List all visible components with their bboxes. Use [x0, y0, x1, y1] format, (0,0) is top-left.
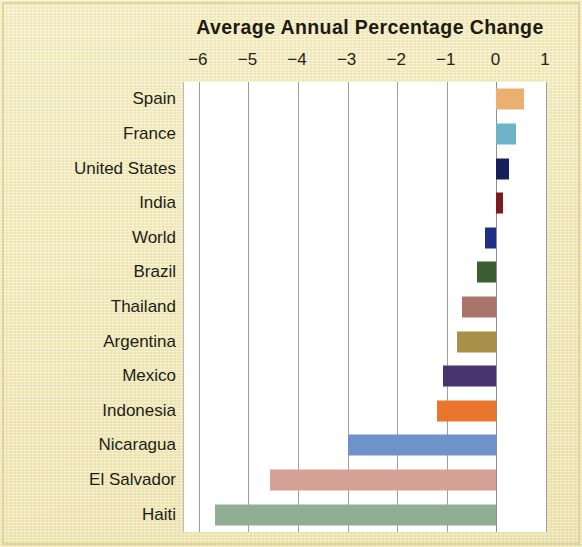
bar-mexico — [443, 366, 497, 387]
y-axis-label: Indonesia — [0, 401, 176, 421]
y-axis-label: Argentina — [0, 332, 176, 352]
y-axis-label: Mexico — [0, 366, 176, 386]
x-tick-label: −5 — [238, 50, 257, 70]
y-axis-label: Thailand — [0, 297, 176, 317]
y-axis-label: El Salvador — [0, 470, 176, 490]
bar-row — [184, 82, 546, 117]
bar-row — [184, 186, 546, 221]
y-axis-label: France — [0, 124, 176, 144]
y-axis-label: Nicaragua — [0, 435, 176, 455]
bar-row — [184, 255, 546, 290]
y-axis-category-labels: SpainFranceUnited StatesIndiaWorldBrazil… — [0, 82, 176, 532]
bar-indonesia — [437, 400, 497, 421]
y-axis-label: Haiti — [0, 505, 176, 525]
bar-world — [485, 227, 496, 248]
y-axis-label: United States — [0, 159, 176, 179]
bar-spain — [496, 89, 524, 110]
bar-thailand — [462, 296, 497, 317]
x-tick-label: −6 — [188, 50, 207, 70]
bar-nicaragua — [348, 435, 497, 456]
bar-el-salvador — [270, 470, 496, 491]
x-tick-label: 1 — [540, 50, 549, 70]
bar-row — [184, 463, 546, 498]
y-axis-label: India — [0, 193, 176, 213]
plot-area — [183, 82, 546, 532]
chart-title: Average Annual Percentage Change — [170, 16, 570, 39]
bar-india — [496, 193, 502, 214]
y-axis-label: Brazil — [0, 262, 176, 282]
bar-haiti — [215, 504, 496, 525]
bar-row — [184, 394, 546, 429]
bar-row — [184, 324, 546, 359]
bar-rows — [184, 82, 546, 532]
bar-chart: Average Annual Percentage Change −6−5−4−… — [0, 0, 582, 547]
x-tick-label: −4 — [287, 50, 306, 70]
bar-row — [184, 428, 546, 463]
bar-argentina — [457, 331, 496, 352]
bar-row — [184, 497, 546, 532]
bar-row — [184, 290, 546, 325]
y-axis-label: World — [0, 228, 176, 248]
bar-france — [496, 123, 516, 144]
x-axis-tick-labels: −6−5−4−3−2−101 — [0, 50, 582, 74]
x-tick-label: 0 — [491, 50, 500, 70]
gridline — [546, 82, 547, 532]
bar-united-states — [496, 158, 508, 179]
bar-row — [184, 220, 546, 255]
y-axis-label: Spain — [0, 89, 176, 109]
bar-brazil — [477, 262, 497, 283]
x-tick-label: −3 — [337, 50, 356, 70]
bar-row — [184, 117, 546, 152]
bar-row — [184, 151, 546, 186]
x-tick-label: −1 — [436, 50, 455, 70]
bar-row — [184, 359, 546, 394]
x-tick-label: −2 — [387, 50, 406, 70]
